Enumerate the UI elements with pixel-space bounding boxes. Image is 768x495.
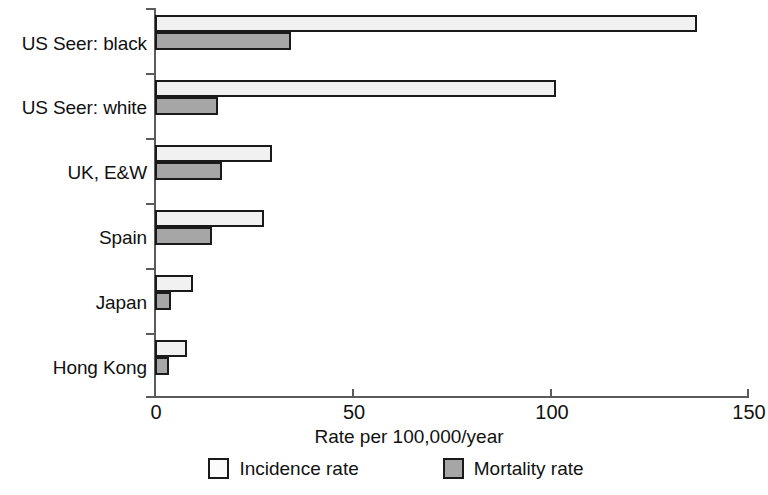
y-axis-label-us-seer-black: US Seer: black: [0, 34, 147, 53]
legend-label-mortality: Mortality rate: [474, 458, 584, 479]
x-axis-ticklabel-50: 50: [343, 400, 365, 424]
y-axis-tick: [146, 73, 155, 75]
y-axis-tick: [146, 203, 155, 205]
plot-area: [155, 8, 748, 397]
x-axis-ticklabel-100: 100: [535, 400, 568, 424]
y-axis-label-uk-ew: UK, E&W: [0, 163, 147, 182]
bar-mortality-us-seer-white: [155, 97, 218, 115]
bar-incidence-spain: [155, 210, 264, 227]
bar-incidence-us-seer-white: [155, 80, 556, 97]
bar-chart-figure: US Seer: black US Seer: white UK, E&W Sp…: [0, 0, 768, 495]
bar-mortality-japan: [155, 292, 171, 310]
y-axis-category-labels: US Seer: black US Seer: white UK, E&W Sp…: [0, 10, 147, 398]
chart-legend: Incidence rate Mortality rate: [0, 458, 768, 479]
bar-incidence-uk-ew: [155, 145, 272, 162]
y-axis-label-japan: Japan: [0, 293, 147, 312]
y-axis-label-us-seer-white: US Seer: white: [0, 98, 147, 117]
bar-incidence-japan: [155, 275, 193, 292]
bar-mortality-us-seer-black: [155, 32, 291, 50]
mortality-swatch-icon: [443, 458, 464, 479]
y-axis-tick: [146, 8, 155, 10]
legend-entry-incidence: Incidence rate: [208, 458, 358, 479]
legend-entry-mortality: Mortality rate: [443, 458, 584, 479]
y-axis-label-spain: Spain: [0, 228, 147, 247]
bar-mortality-uk-ew: [155, 162, 222, 180]
y-axis-tick: [146, 138, 155, 140]
bar-incidence-us-seer-black: [155, 15, 697, 32]
x-axis-ticklabel-0: 0: [150, 400, 161, 424]
bar-mortality-hong-kong: [155, 357, 169, 375]
bar-mortality-spain: [155, 227, 212, 245]
legend-label-incidence: Incidence rate: [239, 458, 358, 479]
incidence-swatch-icon: [208, 458, 229, 479]
x-axis-ticklabel-150: 150: [732, 400, 765, 424]
y-axis-tick: [146, 333, 155, 335]
y-axis-label-hong-kong: Hong Kong: [0, 358, 147, 377]
bar-incidence-hong-kong: [155, 340, 187, 357]
x-axis-title: Rate per 100,000/year: [0, 426, 768, 448]
y-axis-tick: [146, 268, 155, 270]
